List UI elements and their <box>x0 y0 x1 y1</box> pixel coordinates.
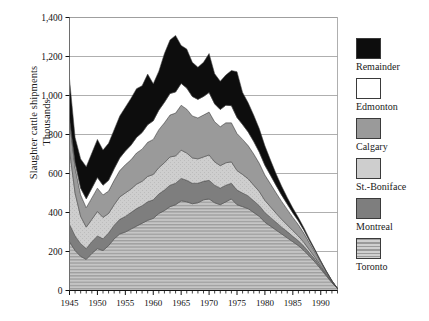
legend-item-remainder[interactable]: Remainder <box>356 38 429 73</box>
svg-text:1985: 1985 <box>284 298 303 308</box>
svg-text:1,000: 1,000 <box>41 91 63 101</box>
legend-label: Edmonton <box>356 100 429 113</box>
legend-item-calgary[interactable]: Calgary <box>356 118 429 153</box>
legend-swatch <box>356 158 381 179</box>
legend-label: Calgary <box>356 140 429 153</box>
legend-swatch <box>356 238 381 259</box>
svg-text:800: 800 <box>48 130 63 140</box>
chart-figure: Slaughter cattle shipments Thousands <box>0 0 429 321</box>
svg-text:200: 200 <box>48 247 63 257</box>
legend-item-edmonton[interactable]: Edmonton <box>356 78 429 113</box>
svg-text:400: 400 <box>48 208 63 218</box>
legend-label: St.-Boniface <box>356 180 429 193</box>
legend-label: Remainder <box>356 60 429 73</box>
legend: RemainderEdmontonCalgarySt.-BonifaceMont… <box>356 38 429 278</box>
svg-text:1980: 1980 <box>256 298 275 308</box>
svg-text:0: 0 <box>58 286 63 296</box>
stacked-areas <box>70 35 338 290</box>
svg-text:1950: 1950 <box>88 298 107 308</box>
svg-text:1955: 1955 <box>116 298 135 308</box>
svg-text:600: 600 <box>48 169 63 179</box>
y-axis-labels: 02004006008001,0001,2001,400 <box>41 13 63 296</box>
svg-text:1990: 1990 <box>312 298 331 308</box>
svg-text:1960: 1960 <box>144 298 163 308</box>
legend-swatch <box>356 38 381 59</box>
legend-item-st-boniface[interactable]: St.-Boniface <box>356 158 429 193</box>
legend-label: Toronto <box>356 260 429 273</box>
legend-item-montreal[interactable]: Montreal <box>356 198 429 233</box>
legend-swatch <box>356 118 381 139</box>
legend-swatch <box>356 78 381 99</box>
svg-text:1,400: 1,400 <box>41 13 63 23</box>
legend-label: Montreal <box>356 220 429 233</box>
svg-text:1965: 1965 <box>172 298 191 308</box>
svg-text:1945: 1945 <box>61 298 80 308</box>
x-axis-labels: 1945195019551960196519701975198019851990 <box>61 298 331 308</box>
legend-item-toronto[interactable]: Toronto <box>356 238 429 273</box>
legend-swatch <box>356 198 381 219</box>
svg-text:1970: 1970 <box>200 298 219 308</box>
svg-text:1975: 1975 <box>228 298 247 308</box>
svg-text:1,200: 1,200 <box>41 52 63 62</box>
